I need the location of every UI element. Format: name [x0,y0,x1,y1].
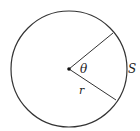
arc-label: S [128,62,136,76]
upper-radius-line [69,33,113,69]
center-point [67,67,71,71]
lower-radius-line [69,69,116,100]
circle-diagram: θ S r [0,0,140,131]
angle-label: θ [80,62,88,76]
radius-label: r [79,84,85,97]
